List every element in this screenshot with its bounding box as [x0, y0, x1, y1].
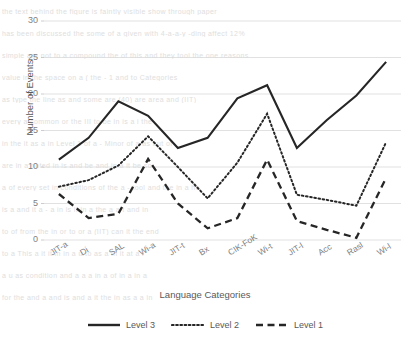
- legend-swatch-dashed: [255, 320, 289, 330]
- y-tick-label: 10: [16, 162, 38, 171]
- legend-label: Level 3: [126, 320, 155, 330]
- y-tick-label: 5: [16, 199, 38, 208]
- y-tick-label: 30: [16, 16, 38, 25]
- legend-item: Level 3: [87, 320, 155, 330]
- y-axis-title: Number of Events: [24, 43, 35, 153]
- series-line-level-2: [59, 114, 386, 206]
- legend-swatch-dotted: [171, 320, 205, 330]
- legend-item: Level 2: [171, 320, 239, 330]
- legend-label: Level 2: [210, 320, 239, 330]
- legend-swatch-solid: [87, 320, 121, 330]
- x-axis-title: Language Categories: [0, 289, 410, 300]
- legend-item: Level 1: [255, 320, 323, 330]
- chart-legend: Level 3Level 2Level 1: [0, 320, 410, 330]
- y-tick-label: 0: [16, 235, 38, 244]
- line-chart: the text behind the figure is faintly vi…: [0, 0, 410, 344]
- legend-label: Level 1: [294, 320, 323, 330]
- series-line-level-3: [59, 62, 386, 160]
- series-layer: [59, 62, 386, 238]
